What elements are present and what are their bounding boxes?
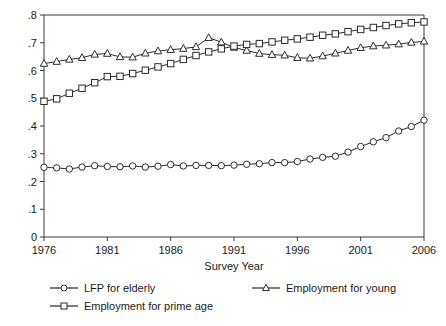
data-point-square-1988 [193, 52, 199, 58]
data-point-circle-1992 [243, 161, 249, 167]
data-point-circle-2003 [383, 134, 389, 140]
data-point-circle-1991 [231, 162, 237, 168]
data-point-square-1999 [332, 31, 338, 37]
x-tick-label-2: 1986 [158, 244, 182, 256]
data-point-square-1997 [307, 34, 313, 40]
data-point-circle-1978 [66, 166, 72, 172]
data-point-circle-1976 [41, 164, 47, 170]
data-point-circle-2006 [421, 117, 427, 123]
data-point-square-1994 [269, 39, 275, 45]
data-point-square-1981 [104, 73, 110, 79]
legend-marker-square [61, 303, 67, 309]
data-point-square-1982 [117, 73, 123, 79]
data-point-square-1987 [180, 56, 186, 62]
data-point-circle-2004 [395, 128, 401, 134]
chart-figure: 0.1.2.3.4.5.6.7.819761981198619911996200… [0, 0, 446, 326]
data-point-square-1998 [319, 32, 325, 38]
x-tick-label-6: 2006 [412, 244, 436, 256]
data-point-square-2001 [357, 26, 363, 32]
data-point-circle-2002 [370, 139, 376, 145]
data-point-triangle-1988 [192, 43, 199, 50]
y-tick-label-5: .5 [28, 92, 37, 104]
data-point-circle-1996 [294, 158, 300, 164]
data-point-square-1985 [155, 64, 161, 70]
line-chart: 0.1.2.3.4.5.6.7.819761981198619911996200… [0, 0, 446, 326]
data-point-square-2006 [421, 19, 427, 25]
data-point-circle-1994 [269, 159, 275, 165]
data-point-square-1990 [218, 46, 224, 52]
legend-label-circle: LFP for elderly [84, 282, 156, 294]
data-point-square-1993 [256, 40, 262, 46]
legend-marker-circle [61, 285, 67, 291]
legend-label-triangle: Employment for young [286, 282, 396, 294]
data-point-triangle-2006 [420, 37, 427, 44]
data-point-square-1996 [294, 36, 300, 42]
data-point-circle-1984 [142, 164, 148, 170]
x-tick-label-5: 2001 [348, 244, 372, 256]
data-point-circle-1997 [307, 156, 313, 162]
data-point-circle-1986 [167, 161, 173, 167]
data-point-square-1980 [91, 80, 97, 86]
data-point-triangle-1995 [281, 51, 288, 58]
data-point-square-1979 [79, 85, 85, 91]
data-point-circle-1983 [129, 163, 135, 169]
x-tick-label-1: 1981 [95, 244, 119, 256]
data-point-circle-1989 [205, 162, 211, 168]
data-point-circle-1977 [53, 165, 59, 171]
y-tick-label-6: .6 [28, 65, 37, 77]
data-point-square-1978 [66, 90, 72, 96]
data-point-triangle-1981 [104, 50, 111, 57]
data-point-square-2004 [395, 21, 401, 27]
data-point-circle-1980 [91, 162, 97, 168]
data-point-circle-1987 [180, 163, 186, 169]
data-point-circle-2005 [408, 123, 414, 129]
series-line-square [44, 22, 424, 101]
data-point-circle-1979 [79, 164, 85, 170]
x-tick-label-3: 1991 [222, 244, 246, 256]
data-point-circle-1995 [281, 159, 287, 165]
data-point-circle-2001 [357, 143, 363, 149]
x-tick-label-4: 1996 [285, 244, 309, 256]
data-point-circle-1999 [332, 153, 338, 159]
data-point-circle-1981 [104, 163, 110, 169]
data-point-circle-1982 [117, 164, 123, 170]
y-tick-label-8: .8 [28, 9, 37, 21]
data-point-square-1977 [53, 96, 59, 102]
data-point-circle-1993 [256, 161, 262, 167]
data-point-circle-1985 [155, 163, 161, 169]
data-point-square-1992 [243, 41, 249, 47]
data-point-square-1976 [41, 98, 47, 104]
data-point-square-1995 [281, 37, 287, 43]
data-point-circle-1988 [193, 162, 199, 168]
data-point-circle-1990 [218, 162, 224, 168]
data-point-square-2005 [408, 20, 414, 26]
data-point-triangle-1989 [205, 34, 212, 41]
data-point-square-1983 [129, 70, 135, 76]
data-point-square-1986 [167, 60, 173, 66]
y-tick-label-0: 0 [31, 231, 37, 243]
data-point-square-1989 [205, 49, 211, 55]
data-point-circle-2000 [345, 149, 351, 155]
y-tick-label-2: .2 [28, 176, 37, 188]
data-point-circle-1998 [319, 154, 325, 160]
y-tick-label-3: .3 [28, 148, 37, 160]
data-point-square-2002 [370, 24, 376, 30]
y-tick-label-7: .7 [28, 37, 37, 49]
legend-label-square: Employment for prime age [84, 300, 213, 312]
x-tick-label-0: 1976 [32, 244, 56, 256]
data-point-square-2000 [345, 28, 351, 34]
data-point-square-1991 [231, 43, 237, 49]
y-tick-label-1: .1 [28, 203, 37, 215]
data-point-square-2003 [383, 22, 389, 28]
x-axis-title: Survey Year [204, 260, 264, 272]
data-point-square-1984 [142, 67, 148, 73]
y-tick-label-4: .4 [28, 120, 37, 132]
